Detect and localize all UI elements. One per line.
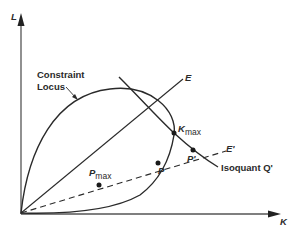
expansion-path-e [21,79,183,213]
point-p-prime [191,148,196,153]
isoquant-label: Isoquant Q' [221,163,273,173]
p-max-label: Pmax [89,168,111,178]
k-max-main: K [178,123,185,134]
k-max-label: Kmax [178,124,201,134]
p-max-sub: max [95,171,111,181]
l-axis-arrow-icon [18,13,25,26]
constraint-locus-label-line1: Constraint [37,70,85,80]
expansion-path-label: E [185,73,191,83]
axes [21,22,272,214]
p-prime-label: P' [187,154,196,164]
x-axis-label: K [280,217,287,227]
y-axis-label: L [11,12,17,22]
point-p-max [97,183,102,188]
constraint-locus-label-line2: Locus [37,82,65,92]
dashed-path-label: E' [226,144,235,154]
k-max-sub: max [185,127,201,137]
diagram-canvas [0,0,303,236]
p-label: P [158,166,164,176]
point-k-max [172,131,177,136]
